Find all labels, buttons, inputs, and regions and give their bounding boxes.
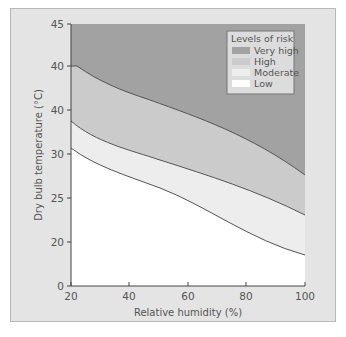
y-tick-label: 20	[51, 236, 64, 248]
legend-swatch-moderate	[232, 69, 250, 76]
legend-label-low: Low	[254, 78, 273, 89]
x-axis-title: Relative humidity (%)	[134, 307, 242, 318]
y-tick-label: 40	[51, 60, 64, 72]
legend-title: Levels of risk	[231, 33, 294, 44]
y-tick-label: 45	[51, 18, 64, 30]
legend-swatch-very-high	[232, 47, 250, 54]
legend: Levels of risk Very high High Moderate L…	[227, 31, 299, 94]
legend-label-moderate: Moderate	[254, 67, 299, 78]
legend-label-very-high: Very high	[254, 45, 299, 56]
y-ticks	[67, 24, 71, 286]
y-tick-label: 0	[57, 280, 64, 292]
legend-swatch-low	[232, 80, 250, 87]
x-tick-label: 40	[122, 290, 135, 302]
y-tick-label: 30	[51, 148, 64, 160]
legend-label-high: High	[254, 56, 276, 67]
x-tick-label: 20	[64, 290, 77, 302]
y-tick-label: 25	[51, 192, 64, 204]
x-tick-label: 60	[181, 290, 194, 302]
legend-swatch-high	[232, 58, 250, 65]
risk-chart: 45 40 40 30 25 20 0 20 40 60 80 100 Rela…	[0, 0, 346, 337]
y-axis-title: Dry bulb temperature (°C)	[33, 89, 44, 221]
y-tick-label: 40	[51, 104, 64, 116]
x-tick-label: 80	[239, 290, 252, 302]
x-tick-label: 100	[295, 290, 315, 302]
